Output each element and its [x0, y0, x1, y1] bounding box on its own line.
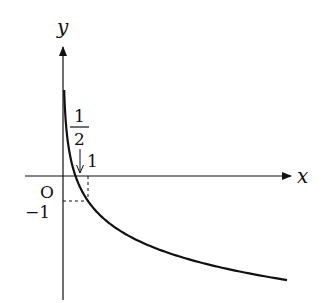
function-graph: y x O −1 1 1 2: [0, 0, 334, 303]
fraction-numerator: 1: [74, 106, 85, 126]
origin-label: O: [40, 182, 54, 202]
tick-label-x-one: 1: [87, 151, 98, 171]
x-axis-label: x: [297, 164, 308, 188]
tick-label-y-minus-one: −1: [25, 202, 50, 222]
log-curve: [64, 90, 287, 280]
y-axis-label: y: [56, 15, 69, 39]
fraction-denominator: 2: [74, 129, 85, 149]
